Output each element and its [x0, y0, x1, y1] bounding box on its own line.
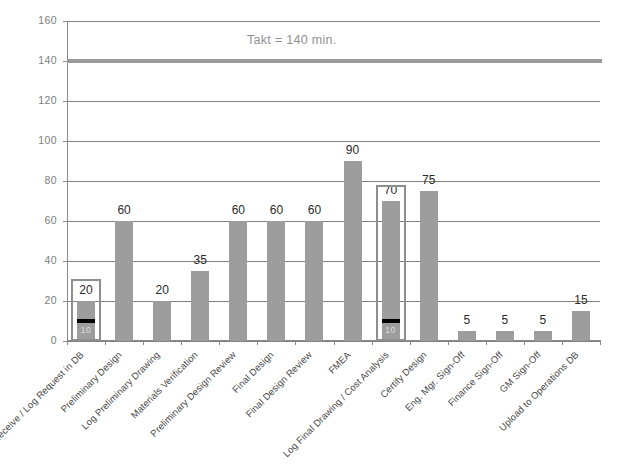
bar-value-label: 35	[180, 253, 220, 267]
bar	[420, 191, 438, 341]
bar	[191, 271, 209, 341]
y-axis-tick-label: 100	[19, 134, 57, 146]
bar-chart: 2060203560606090707555515 1010 Takt = 14…	[0, 0, 617, 471]
x-axis-tick	[257, 340, 258, 345]
x-axis-tick	[181, 340, 182, 345]
x-axis-category-label: Materials Verification	[129, 349, 200, 420]
x-axis-tick	[524, 340, 525, 345]
bar-value-label: 15	[561, 293, 601, 307]
highlight-callout-box	[376, 185, 406, 341]
y-axis-tick-label: 120	[19, 94, 57, 106]
value-added-time-label: 10	[71, 325, 101, 335]
gridline	[67, 141, 600, 142]
x-axis-tick	[448, 340, 449, 345]
takt-label: Takt = 140 min.	[247, 33, 337, 47]
x-axis-category-label: FMEA	[326, 349, 353, 376]
bar	[153, 301, 171, 341]
x-axis-tick	[600, 340, 601, 345]
bar-value-label: 60	[218, 203, 258, 217]
y-axis-tick	[63, 301, 68, 302]
value-added-time-marker	[382, 319, 400, 323]
plot-area: 2060203560606090707555515 1010 Takt = 14…	[67, 21, 600, 341]
y-axis-tick-label: 160	[19, 14, 57, 26]
bar	[344, 161, 362, 341]
bar-value-label: 60	[294, 203, 334, 217]
y-axis-tick-label: 80	[19, 174, 57, 186]
x-axis-tick	[143, 340, 144, 345]
x-axis-tick	[486, 340, 487, 345]
y-axis-tick-label: 40	[19, 254, 57, 266]
bar-value-label: 5	[523, 313, 563, 327]
bar-value-label: 20	[142, 283, 182, 297]
x-axis-category-label: Final Design Review	[244, 349, 314, 419]
bar	[229, 221, 247, 341]
value-added-time-marker	[77, 319, 95, 323]
x-axis-tick	[67, 340, 68, 345]
bar-value-label: 60	[256, 203, 296, 217]
x-axis-tick	[410, 340, 411, 345]
y-axis-tick-label: 140	[19, 54, 57, 66]
gridline	[67, 21, 600, 22]
y-axis-tick	[63, 261, 68, 262]
bar	[534, 331, 552, 341]
gridline	[67, 101, 600, 102]
x-axis-tick	[562, 340, 563, 345]
gridline	[67, 261, 600, 262]
gridline	[67, 221, 600, 222]
x-axis-tick	[219, 340, 220, 345]
y-axis-tick-label: 60	[19, 214, 57, 226]
x-axis-tick	[372, 340, 373, 345]
bar-value-label: 5	[447, 313, 487, 327]
bar	[267, 221, 285, 341]
bar-value-label: 60	[104, 203, 144, 217]
x-axis-tick	[295, 340, 296, 345]
x-axis-tick	[334, 340, 335, 345]
y-axis-tick-label: 20	[19, 294, 57, 306]
bar	[572, 311, 590, 341]
bar	[496, 331, 514, 341]
bar-value-label: 90	[333, 143, 373, 157]
bar-value-label: 5	[485, 313, 525, 327]
y-axis-tick	[63, 221, 68, 222]
y-axis-tick	[63, 141, 68, 142]
gridline	[67, 181, 600, 182]
bar	[458, 331, 476, 341]
bar	[305, 221, 323, 341]
y-axis-tick	[63, 101, 68, 102]
x-axis-category-label: Upload to Operations DB	[497, 349, 581, 433]
gridline	[67, 301, 600, 302]
takt-line	[67, 59, 602, 63]
y-axis-tick	[63, 21, 68, 22]
value-added-time-label: 10	[376, 325, 406, 335]
x-axis-tick	[105, 340, 106, 345]
bar	[115, 221, 133, 341]
y-axis-tick	[63, 181, 68, 182]
y-axis-tick-label: 0	[19, 334, 57, 346]
bar-value-label: 75	[409, 173, 449, 187]
